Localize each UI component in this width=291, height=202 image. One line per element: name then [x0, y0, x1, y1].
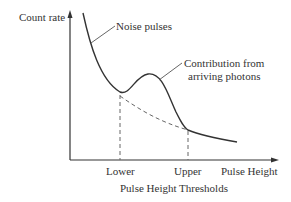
- lower-threshold-label: Lower: [106, 165, 135, 177]
- y-axis-label: Count rate: [19, 11, 65, 23]
- noise-pulses-label: Noise pulses: [116, 20, 172, 32]
- contribution-label-line2: arriving photons: [188, 70, 260, 82]
- contribution-leader-line: [159, 63, 182, 80]
- x-axis-label: Pulse Height: [221, 165, 278, 177]
- x-axis-title: Pulse Height Thresholds: [120, 182, 228, 194]
- noise-leader-line: [91, 26, 115, 43]
- upper-threshold-label: Upper: [174, 165, 202, 177]
- y-axis-arrow-icon: [68, 10, 73, 18]
- x-axis-arrow-icon: [271, 158, 279, 163]
- noise-tail-dashed-curve: [120, 96, 188, 130]
- contribution-label-line1: Contribution from: [184, 57, 264, 69]
